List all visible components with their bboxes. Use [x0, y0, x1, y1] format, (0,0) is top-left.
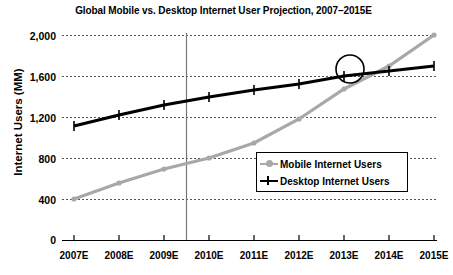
chart-legend: Mobile Internet Users Desktop Internet U…	[256, 152, 408, 192]
legend-marker-desktop-icon	[260, 175, 278, 187]
legend-marker-mobile-icon	[260, 158, 278, 170]
x-tick-label-2011E: 2011E	[232, 250, 276, 261]
x-tick-label-2010E: 2010E	[187, 250, 231, 261]
x-tick-label-2014E: 2014E	[367, 250, 411, 261]
x-tick-label-2008E: 2008E	[97, 250, 141, 261]
x-tick-label-2009E: 2009E	[142, 250, 186, 261]
legend-item-desktop: Desktop Internet Users	[260, 173, 389, 189]
x-axis	[62, 235, 437, 241]
x-tick-label-2007E: 2007E	[52, 250, 96, 261]
crossover-highlight-circle	[336, 55, 364, 83]
series-desktop-internet-users	[74, 61, 434, 131]
x-tick-label-2013E: 2013E	[322, 250, 366, 261]
x-tick-label-2015E: 2015E	[412, 250, 453, 261]
x-tick-label-2012E: 2012E	[277, 250, 321, 261]
legend-label-mobile: Mobile Internet Users	[280, 159, 382, 170]
legend-item-mobile: Mobile Internet Users	[260, 156, 382, 172]
legend-label-desktop: Desktop Internet Users	[280, 176, 389, 187]
